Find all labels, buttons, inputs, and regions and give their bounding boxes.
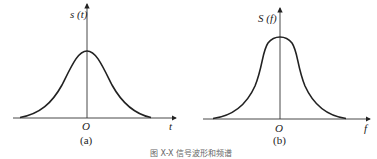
y-axis-label-a: s (t) — [70, 8, 88, 21]
origin-label-a: O — [82, 120, 90, 132]
y-axis-label-b: S (f) — [258, 12, 277, 25]
figure: s (t) O t (a) S (f) O f (b) 图 X-X 信号波形和频… — [0, 0, 377, 159]
sublabel-a: (a) — [80, 134, 93, 147]
sublabel-b: (b) — [273, 134, 286, 147]
figure-caption: 图 X-X 信号波形和频谱 — [150, 148, 232, 158]
x-axis-label-b: f — [364, 122, 369, 134]
curve-a — [20, 51, 151, 118]
curve-b — [213, 37, 346, 119]
x-axis-label-a: t — [169, 120, 173, 132]
panel-b: S (f) O f (b) — [203, 8, 370, 147]
origin-label-b: O — [275, 122, 283, 134]
panel-a: s (t) O t (a) — [13, 4, 176, 147]
